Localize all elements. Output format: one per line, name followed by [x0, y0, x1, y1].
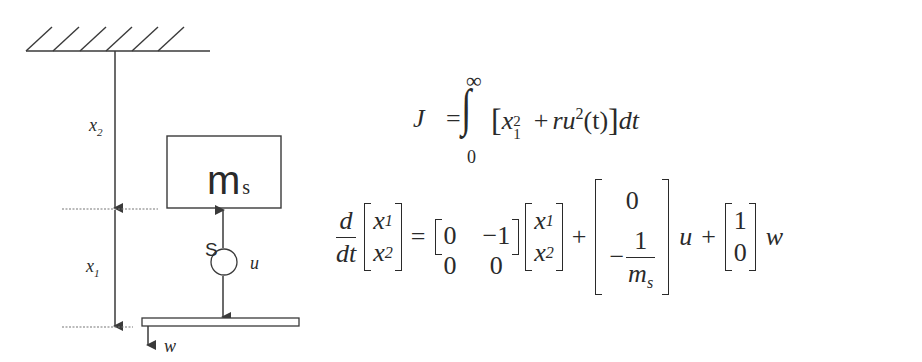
mass-label: ms — [207, 160, 250, 200]
disturbance-symbol: w — [766, 222, 783, 252]
b-vector: 0 − 1 ms — [595, 179, 669, 295]
cost-equals: = — [446, 106, 461, 132]
plus-sign-1: + — [572, 222, 587, 252]
cost-function-equation: J — [413, 106, 425, 132]
control-input-label: u — [250, 254, 259, 272]
state-vector-lhs: x1 x2 — [364, 203, 402, 271]
control-input-symbol: u — [679, 222, 692, 252]
state-space-equation: d dt x1 x2 = 00 −10 x1 x2 + 0 − 1 ms — [336, 172, 783, 302]
x1-label: x1 — [86, 257, 100, 275]
equals-sign: = — [411, 222, 426, 252]
state-vector-rhs: x1 x2 — [525, 203, 563, 271]
integral-upper-limit: ∞ — [466, 70, 482, 92]
integrand: [x21 +ru2(t)]dt — [491, 104, 639, 136]
derivative-operator: d dt — [336, 206, 356, 269]
integral-lower-limit: 0 — [467, 148, 476, 166]
ground-ceiling — [26, 27, 210, 51]
e-vector: 1 0 — [725, 203, 756, 271]
disturbance-label: w — [164, 337, 176, 355]
plus-sign-2: + — [701, 222, 716, 252]
x2-label: x2 — [89, 116, 103, 134]
road-plate — [142, 318, 299, 326]
actuator-label: S — [205, 240, 218, 259]
a-matrix: 00 −10 — [435, 219, 520, 255]
